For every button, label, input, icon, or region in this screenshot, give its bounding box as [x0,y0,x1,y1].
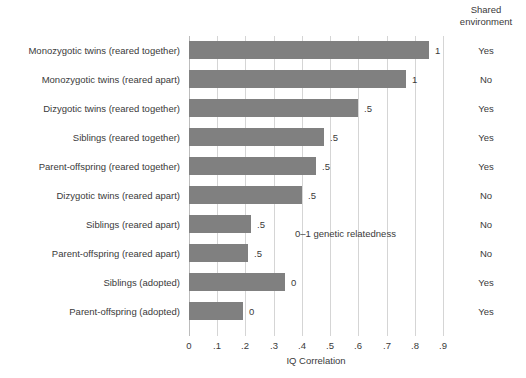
bar [189,99,358,117]
chart-row: Siblings (reared apart).5No [0,210,526,239]
row-label: Dizygotic twins (reared apart) [0,181,180,210]
shared-environment-value: No [448,181,524,210]
chart-row: Parent-offspring (reared apart).5No [0,239,526,268]
row-label: Monozygotic twins (reared apart) [0,65,180,94]
shared-environment-value: Yes [448,94,524,123]
bar [189,186,302,204]
row-label: Siblings (reared apart) [0,210,180,239]
x-axis-title: IQ Correlation [189,355,443,366]
bar-value-label: 0 [291,268,296,297]
chart-row: Monozygotic twins (reared apart)1No [0,65,526,94]
shared-environment-value: No [448,65,524,94]
shared-environment-header-line-1: Shared [448,4,524,16]
bar [189,244,248,262]
bar-value-label: .5 [308,181,316,210]
bar-value-label: 1 [435,36,440,65]
x-tick-label: .3 [262,340,286,351]
bar [189,215,251,233]
bar-value-label: .5 [364,94,372,123]
bar-value-label: .5 [330,123,338,152]
bar-value-label: .5 [254,239,262,268]
x-tick-label: .2 [233,340,257,351]
shared-environment-value: Yes [448,123,524,152]
iq-correlation-chart: Shared environment Monozygotic twins (re… [0,0,526,378]
x-tick-label: .6 [346,340,370,351]
chart-row: Siblings (adopted)0Yes [0,268,526,297]
row-label: Parent-offspring (reared together) [0,152,180,181]
shared-environment-header-line-2: environment [448,16,524,28]
x-tick-label: .4 [290,340,314,351]
row-label: Dizygotic twins (reared together) [0,94,180,123]
chart-row: Monozygotic twins (reared together)1Yes [0,36,526,65]
bar [189,157,316,175]
bar [189,70,406,88]
row-label: Monozygotic twins (reared together) [0,36,180,65]
x-tick-label: .5 [318,340,342,351]
genetic-relatedness-annotation: 0–1 genetic relatedness [295,228,396,239]
shared-environment-value: No [448,210,524,239]
row-label: Siblings (adopted) [0,268,180,297]
chart-row: Parent-offspring (adopted)0Yes [0,297,526,326]
bar-value-label: .5 [322,152,330,181]
x-tick-label: .7 [375,340,399,351]
shared-environment-value: Yes [448,297,524,326]
x-tick-label: .9 [431,340,455,351]
bar-value-label: .5 [257,210,265,239]
x-tick-label: 0 [177,340,201,351]
shared-environment-value: Yes [448,36,524,65]
row-label: Siblings (reared together) [0,123,180,152]
row-label: Parent-offspring (reared apart) [0,239,180,268]
shared-environment-value: Yes [448,152,524,181]
shared-environment-value: Yes [448,268,524,297]
bar [189,302,243,320]
chart-row: Siblings (reared together).5Yes [0,123,526,152]
bar [189,128,324,146]
bar-value-label: 1 [412,65,417,94]
bar-value-label: 0 [249,297,254,326]
x-tick-label: .1 [205,340,229,351]
bar [189,273,285,291]
chart-row: Dizygotic twins (reared together).5Yes [0,94,526,123]
shared-environment-column-header: Shared environment [448,4,524,28]
chart-row: Dizygotic twins (reared apart).5No [0,181,526,210]
row-label: Parent-offspring (adopted) [0,297,180,326]
x-tick-label: .8 [403,340,427,351]
shared-environment-value: No [448,239,524,268]
bar [189,41,429,59]
chart-row: Parent-offspring (reared together).5Yes [0,152,526,181]
